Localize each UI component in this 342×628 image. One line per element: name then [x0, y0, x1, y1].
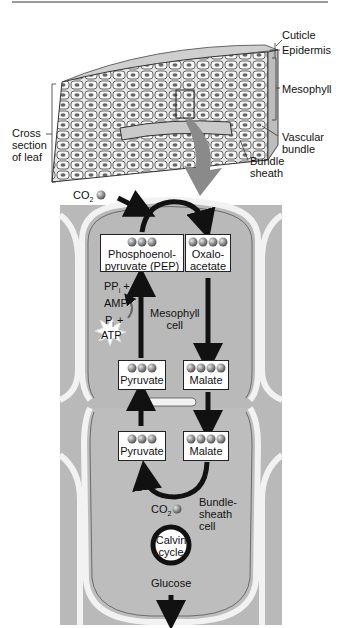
ppi-amp-label: PPi +AMP: [104, 280, 130, 309]
mesophyll-cell-label: Mesophyllcell: [150, 307, 200, 331]
oxaloacetate-box: Oxalo-acetate: [185, 234, 231, 272]
label-epidermis: Epidermis: [282, 44, 331, 56]
pyruvate-bundle-sheath-box: Pyruvate: [118, 431, 166, 461]
co2-input-label: CO2: [73, 189, 93, 206]
three-carbon-icon: [127, 237, 157, 247]
four-carbon-icon: [188, 237, 228, 247]
co2-molecule-icon: [97, 191, 106, 200]
atp-label: ATP: [101, 329, 122, 341]
four-carbon-icon: [186, 363, 226, 373]
three-carbon-icon: [127, 363, 157, 373]
glucose-label: Glucose: [151, 577, 191, 589]
label-mesophyll: Mesophyll: [282, 83, 332, 95]
label-cross-section: Crosssectionof leaf: [12, 127, 47, 163]
malate-mesophyll-box: Malate: [183, 360, 229, 390]
pyruvate-mesophyll-box: Pyruvate: [118, 360, 166, 390]
co2-released-label: CO2: [151, 503, 171, 520]
malate-bundle-sheath-box: Malate: [183, 431, 229, 461]
label-bundle-sheath: Bundlesheath: [250, 155, 284, 179]
three-carbon-icon: [127, 434, 157, 444]
label-cuticle: Cuticle: [282, 29, 316, 41]
bundle-sheath-cell-label: Bundle-sheathcell: [199, 496, 237, 532]
four-carbon-icon: [186, 434, 226, 444]
co2-molecule-icon: [173, 505, 182, 514]
label-vascular-bundle: Vascularbundle: [282, 131, 324, 155]
calvin-cycle-label: Calvincycle: [153, 534, 189, 558]
pep-box: Phosphoenol-pyruvate (PEP): [100, 234, 184, 272]
leaf-cross-section: [52, 45, 278, 182]
